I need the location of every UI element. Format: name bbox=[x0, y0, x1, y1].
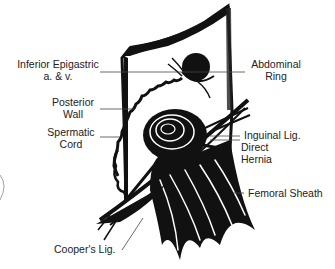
label-line: Cord bbox=[42, 138, 100, 150]
label-line: Hernia bbox=[241, 153, 272, 165]
label-line: Wall bbox=[46, 108, 100, 120]
label-line: Abdominal bbox=[246, 58, 306, 70]
label-line: Ring bbox=[246, 70, 306, 82]
label-posterior-wall: Posterior Wall bbox=[46, 96, 100, 120]
label-direct-hernia: Direct Hernia bbox=[241, 141, 272, 165]
label-line: Posterior bbox=[46, 96, 100, 108]
label-spermatic-cord: Spermatic Cord bbox=[42, 126, 100, 150]
femoral-sheath bbox=[150, 140, 255, 260]
label-line: Direct bbox=[241, 141, 272, 153]
label-abdominal-ring: Abdominal Ring bbox=[246, 58, 306, 82]
label-inferior-epigastric: Inferior Epigastric a. & v. bbox=[8, 58, 108, 82]
faint-arc bbox=[0, 175, 4, 200]
label-femoral-sheath: Femoral Sheath bbox=[248, 187, 323, 199]
label-line: Inferior Epigastric bbox=[8, 58, 108, 70]
label-inguinal-ligament: Inguinal Lig. bbox=[244, 129, 301, 141]
label-line: a. & v. bbox=[8, 70, 108, 82]
label-line: Spermatic bbox=[42, 126, 100, 138]
label-coopers-ligament: Cooper's Lig. bbox=[54, 243, 116, 255]
